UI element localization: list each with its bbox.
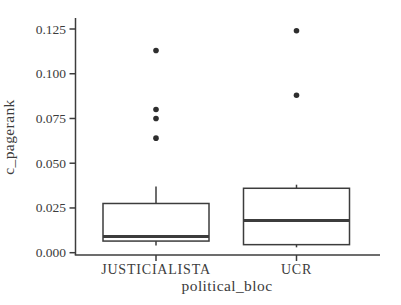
boxplot-chart: 0.0000.0250.0500.0750.1000.125JUSTICIALI… bbox=[0, 0, 401, 305]
outlier-point-justicialista bbox=[153, 135, 159, 141]
y-tick-label: 0.025 bbox=[36, 200, 67, 215]
y-tick-label: 0.050 bbox=[36, 156, 67, 171]
y-axis-title: c_pagerank bbox=[0, 99, 17, 174]
outlier-point-justicialista bbox=[153, 48, 159, 54]
outlier-point-ucr bbox=[294, 28, 300, 34]
x-tick-label-justicialista: JUSTICIALISTA bbox=[101, 262, 211, 277]
y-tick-label: 0.075 bbox=[36, 111, 67, 126]
y-tick-label: 0.100 bbox=[36, 66, 67, 81]
box-ucr bbox=[244, 188, 350, 244]
outlier-point-ucr bbox=[294, 92, 300, 98]
boxplot-figure: 0.0000.0250.0500.0750.1000.125JUSTICIALI… bbox=[0, 0, 401, 305]
y-tick-label: 0.000 bbox=[36, 245, 67, 260]
outlier-point-justicialista bbox=[153, 116, 159, 122]
outlier-point-justicialista bbox=[153, 107, 159, 113]
x-tick-label-ucr: UCR bbox=[281, 262, 312, 277]
x-axis-title: political_bloc bbox=[182, 277, 273, 294]
y-tick-label: 0.125 bbox=[36, 22, 67, 37]
